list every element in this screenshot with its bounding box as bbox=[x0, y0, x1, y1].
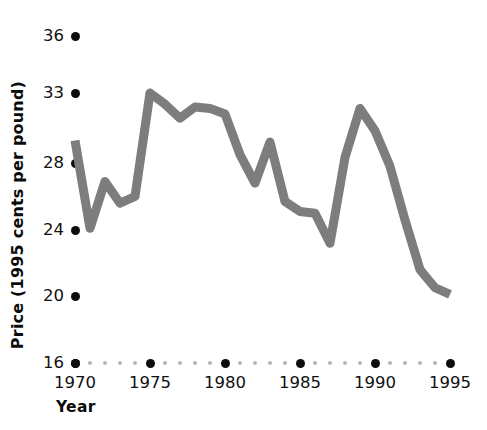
x-tick-dot-minor bbox=[88, 361, 92, 365]
x-tick-dot-minor bbox=[163, 361, 167, 365]
y-tick-label: 36 bbox=[26, 26, 64, 45]
x-tick-dot-major bbox=[146, 359, 155, 368]
y-tick-dot bbox=[71, 226, 80, 235]
price-vs-year-line-chart: Price (1995 cents per pound) 16202428333… bbox=[0, 0, 487, 430]
x-tick-dot-minor bbox=[253, 361, 257, 365]
y-tick-dot bbox=[71, 292, 80, 301]
x-tick-dot-minor bbox=[208, 361, 212, 365]
x-tick-dot-minor bbox=[313, 361, 317, 365]
y-tick-dot bbox=[71, 32, 80, 41]
x-tick-dot-minor bbox=[268, 361, 272, 365]
x-tick-dot-minor bbox=[118, 361, 122, 365]
x-tick-label: 1990 bbox=[345, 373, 405, 392]
x-tick-dot-minor bbox=[358, 361, 362, 365]
x-tick-dot-minor bbox=[133, 361, 137, 365]
x-tick-dot-major bbox=[221, 359, 230, 368]
y-tick-label: 16 bbox=[26, 353, 64, 372]
x-tick-label: 1975 bbox=[120, 373, 180, 392]
y-tick-label: 24 bbox=[26, 220, 64, 239]
x-axis-title: Year bbox=[56, 398, 96, 416]
y-tick-label: 28 bbox=[26, 153, 64, 172]
x-tick-label: 1995 bbox=[420, 373, 480, 392]
x-tick-dot-major bbox=[371, 359, 380, 368]
y-tick-label: 20 bbox=[26, 286, 64, 305]
x-tick-dot-minor bbox=[283, 361, 287, 365]
x-tick-dot-major bbox=[446, 359, 455, 368]
x-tick-dot-major bbox=[296, 359, 305, 368]
x-tick-dot-minor bbox=[238, 361, 242, 365]
x-tick-dot-minor bbox=[103, 361, 107, 365]
x-tick-dot-major bbox=[71, 359, 80, 368]
price-series-line bbox=[75, 93, 450, 294]
y-tick-dot bbox=[71, 89, 80, 98]
y-tick-dot bbox=[71, 159, 80, 168]
x-tick-label: 1970 bbox=[45, 373, 105, 392]
x-tick-dot-minor bbox=[418, 361, 422, 365]
y-axis-title: Price (1995 cents per pound) bbox=[8, 81, 27, 349]
x-tick-dot-minor bbox=[328, 361, 332, 365]
x-tick-label: 1980 bbox=[195, 373, 255, 392]
x-tick-dot-minor bbox=[388, 361, 392, 365]
x-tick-dot-minor bbox=[193, 361, 197, 365]
x-tick-dot-minor bbox=[433, 361, 437, 365]
x-tick-dot-minor bbox=[343, 361, 347, 365]
x-tick-label: 1985 bbox=[270, 373, 330, 392]
y-tick-label: 33 bbox=[26, 83, 64, 102]
x-tick-dot-minor bbox=[178, 361, 182, 365]
x-tick-dot-minor bbox=[403, 361, 407, 365]
